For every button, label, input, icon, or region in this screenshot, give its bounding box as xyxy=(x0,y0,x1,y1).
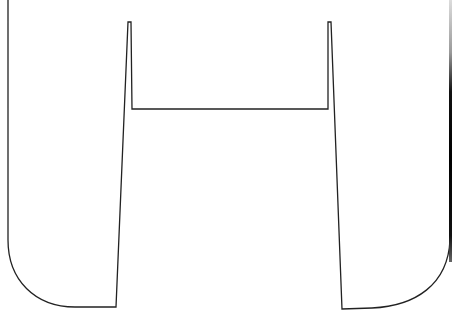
garment-outline xyxy=(8,0,450,309)
right-edge-shadow xyxy=(449,0,452,262)
drawing-canvas xyxy=(0,0,453,333)
outline-shape xyxy=(0,0,453,333)
